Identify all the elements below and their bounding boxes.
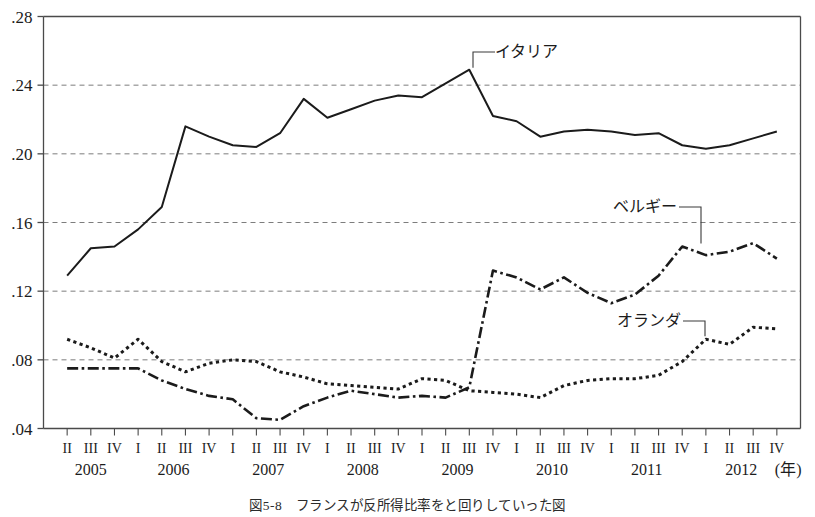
y-axis-tick-label: .20 xyxy=(11,145,32,164)
x-axis-quarter-label: II xyxy=(630,441,640,456)
annotation-leader-line xyxy=(683,321,705,336)
x-axis-quarter-label: IV xyxy=(202,441,217,456)
series-annotation-label: イタリア xyxy=(495,43,558,60)
x-axis-quarter-label: III xyxy=(746,441,760,456)
x-axis-tick-labels: IIIIIIVIIIIIIIVIIIIIIIVIIIIIIIVIIIIIIIVI… xyxy=(62,441,784,456)
x-axis-year-label: 2006 xyxy=(158,461,190,478)
x-axis-quarter-label: III xyxy=(273,441,287,456)
x-axis-quarter-label: III xyxy=(84,441,98,456)
x-axis-quarter-label: II xyxy=(725,441,735,456)
y-axis-tick-label: .24 xyxy=(11,76,33,95)
x-axis-quarter-label: IV xyxy=(391,441,406,456)
x-axis-year-label: 2010 xyxy=(536,461,568,478)
x-axis-quarter-label: I xyxy=(420,441,425,456)
y-axis-tick-label: .04 xyxy=(11,420,33,439)
x-axis-quarter-label: I xyxy=(704,441,709,456)
x-axis-quarter-label: I xyxy=(230,441,235,456)
y-axis-tick-label: .28 xyxy=(11,8,32,27)
series-line-1 xyxy=(67,243,777,420)
x-axis-quarter-label: IV xyxy=(675,441,690,456)
x-axis-quarter-label: III xyxy=(557,441,571,456)
x-axis-quarter-label: III xyxy=(652,441,666,456)
y-axis-ticks: .04.08.12.16.20.24.28 xyxy=(11,8,43,439)
x-axis-quarter-label: I xyxy=(136,441,141,456)
x-axis-unit-note: (年) xyxy=(775,461,802,479)
series-annotation-label: ベルギー xyxy=(613,198,677,215)
x-axis-quarter-label: IV xyxy=(486,441,501,456)
series-line-2 xyxy=(67,327,777,397)
x-axis-year-label: 2005 xyxy=(75,461,107,478)
x-axis-quarter-label: II xyxy=(157,441,167,456)
x-axis-year-label: 2011 xyxy=(631,461,662,478)
data-series-group xyxy=(67,70,777,420)
x-axis-year-label: 2007 xyxy=(252,461,284,478)
series-line-0 xyxy=(67,70,777,276)
annotation-leader-line xyxy=(473,52,495,68)
x-axis-quarter-label: I xyxy=(325,441,330,456)
x-axis-quarter-label: II xyxy=(536,441,546,456)
line-chart: .04.08.12.16.20.24.28 IIIIIIVIIIIIIIVIII… xyxy=(0,0,815,517)
x-axis-quarter-label: II xyxy=(346,441,356,456)
x-axis-year-labels: 20052006200720082009201020112012(年) xyxy=(75,461,802,479)
x-axis-quarter-label: IV xyxy=(580,441,595,456)
y-axis-tick-label: .08 xyxy=(11,351,32,370)
series-annotation-label: オランダ xyxy=(617,312,681,329)
figure-container: .04.08.12.16.20.24.28 IIIIIIVIIIIIIIVIII… xyxy=(0,0,815,517)
y-axis-tick-label: .16 xyxy=(11,214,32,233)
figure-caption: 図5-8 フランスが反所得比率をと回りしていった図 xyxy=(0,494,815,517)
x-axis-ticks xyxy=(67,429,777,436)
x-axis-quarter-label: I xyxy=(609,441,614,456)
x-axis-year-label: 2009 xyxy=(441,461,473,478)
x-axis-quarter-label: I xyxy=(514,441,519,456)
x-axis-quarter-label: II xyxy=(441,441,451,456)
x-axis-quarter-label: II xyxy=(62,441,72,456)
x-axis-quarter-label: IV xyxy=(769,441,784,456)
x-axis-quarter-label: IV xyxy=(107,441,122,456)
x-axis-quarter-label: III xyxy=(178,441,192,456)
gridlines xyxy=(44,85,801,360)
annotation-leader-line xyxy=(679,207,701,244)
x-axis-year-label: 2008 xyxy=(347,461,379,478)
x-axis-year-label: 2012 xyxy=(725,461,757,478)
y-axis-tick-label: .12 xyxy=(11,282,32,301)
x-axis-quarter-label: II xyxy=(252,441,262,456)
x-axis-quarter-label: IV xyxy=(296,441,311,456)
x-axis-quarter-label: III xyxy=(462,441,476,456)
x-axis-quarter-label: III xyxy=(368,441,382,456)
